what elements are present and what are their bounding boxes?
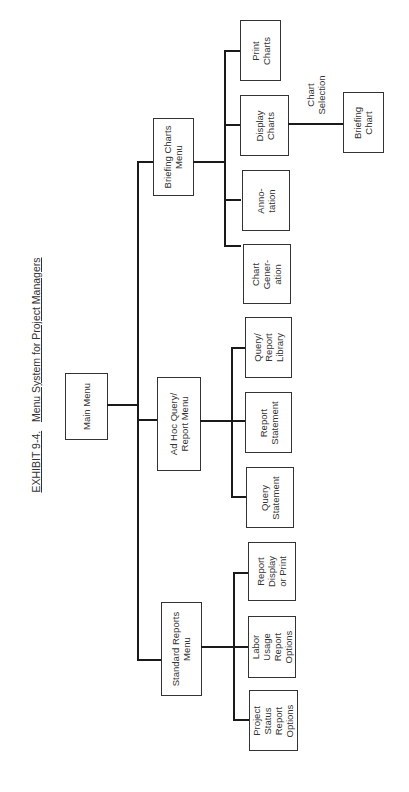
exhibit-title: EXHIBIT 9-4. Menu System for Project Man…: [30, 257, 42, 492]
connector-to-project-status: [233, 719, 250, 721]
display-charts-box: Display Charts: [240, 95, 289, 156]
labor-usage-report-options-box: Labor Usage Report Options: [248, 616, 296, 678]
diagram-canvas: EXHIBIT 9-4. Menu System for Project Man…: [0, 0, 409, 792]
briefing-leaf-spine: [224, 50, 226, 247]
annotation-label: Anno- tation: [255, 188, 277, 213]
adhoc-leaf-spine: [231, 347, 233, 498]
print-charts-box: Print Charts: [240, 20, 281, 81]
briefing-chart-box: Briefing Chart: [343, 92, 384, 153]
project-status-report-options-label: Project Status Report Options: [252, 704, 296, 737]
connector-standard-to-leaf-spine: [201, 646, 235, 648]
connector-to-display-charts: [224, 124, 241, 126]
report-statement-box: Report Statement: [245, 392, 292, 453]
query-report-library-box: Query/ Report Library: [245, 317, 292, 378]
exhibit-number: EXHIBIT 9-4.: [30, 431, 42, 493]
connector-spine-to-adhoc: [137, 419, 158, 421]
briefing-chart-label: Briefing Chart: [353, 106, 375, 138]
chart-selection-edge-label: Chart Selection: [305, 75, 327, 114]
connector-to-query-report-library: [231, 347, 246, 349]
connector-spine-to-standard: [137, 659, 162, 661]
labor-usage-report-options-label: Labor Usage Report Options: [250, 631, 294, 664]
query-report-library-label: Query/ Report Library: [252, 333, 285, 362]
connector-display-to-briefing-chart: [288, 123, 344, 125]
chart-generation-label: Chart Gener- ation: [250, 259, 283, 289]
connector-spine-to-briefing: [137, 161, 154, 163]
main-spine: [137, 162, 139, 661]
standard-reports-menu-label: Standard Reports Menu: [171, 612, 193, 686]
connector-to-chart-generation: [224, 245, 241, 247]
annotation-box: Anno- tation: [242, 170, 290, 231]
connector-to-query-statement: [231, 496, 247, 498]
connector-to-labor-usage: [233, 646, 249, 648]
main-menu-box: Main Menu: [65, 373, 108, 440]
connector-to-annotation: [224, 199, 241, 201]
connector-to-report-statement: [231, 420, 246, 422]
connector-main-to-spine: [107, 404, 139, 406]
chart-generation-box: Chart Gener- ation: [243, 244, 291, 304]
exhibit-title-text: Menu System for Project Managers: [30, 257, 42, 422]
print-charts-label: Print Charts: [249, 37, 271, 65]
report-display-print-label: Report Display or Print: [256, 556, 289, 587]
standard-reports-menu-box: Standard Reports Menu: [161, 602, 202, 696]
connector-to-print-charts: [224, 50, 241, 52]
connector-briefing-to-leaf-spine: [193, 161, 226, 163]
display-charts-label: Display Charts: [254, 110, 276, 141]
adhoc-query-report-menu-label: Ad Hoc Query/ Report Menu: [168, 393, 190, 455]
briefing-charts-menu-box: Briefing Charts Menu: [153, 118, 194, 196]
query-statement-box: Query Statement: [246, 467, 294, 528]
main-menu-label: Main Menu: [81, 383, 92, 430]
adhoc-query-report-menu-box: Ad Hoc Query/ Report Menu: [157, 377, 201, 471]
report-statement-label: Report Statement: [258, 401, 280, 444]
connector-adhoc-to-leaf-spine: [200, 420, 233, 422]
connector-to-report-display-print: [233, 572, 249, 574]
query-statement-label: Query Statement: [259, 476, 281, 519]
project-status-report-options-box: Project Status Report Options: [249, 690, 298, 751]
report-display-print-box: Report Display or Print: [248, 542, 296, 601]
briefing-charts-menu-label: Briefing Charts Menu: [163, 126, 185, 189]
